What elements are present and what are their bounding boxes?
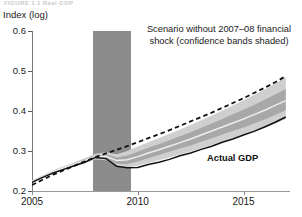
x-axis-line <box>32 191 290 192</box>
y-tick-label: 0.6 <box>0 26 26 36</box>
x-tick-mark <box>244 191 245 195</box>
y-tick-label: 0.3 <box>0 146 26 156</box>
x-tick-label: 2005 <box>12 196 52 207</box>
y-tick-mark <box>28 31 32 32</box>
y-tick-mark <box>28 151 32 152</box>
x-tick-label: 2010 <box>118 196 158 207</box>
y-tick-label: 0.5 <box>0 66 26 76</box>
x-tick-mark <box>32 191 33 195</box>
actual-gdp-series-label: Actual GDP <box>207 153 258 163</box>
y-tick-mark <box>28 111 32 112</box>
y-tick-label: 0.4 <box>0 106 26 116</box>
x-tick-mark <box>138 191 139 195</box>
y-tick-mark <box>28 71 32 72</box>
figure-title: FIGURE 1.1 Real GDP <box>4 0 73 6</box>
x-tick-label: 2015 <box>224 196 264 207</box>
y-axis-title: Index (log) <box>3 9 48 20</box>
plot-area <box>32 31 290 191</box>
chart-series-layer <box>32 31 290 191</box>
y-tick-label: 0.2 <box>0 186 26 196</box>
scenario-annotation: Scenario without 2007–08 financial shock… <box>140 24 298 47</box>
